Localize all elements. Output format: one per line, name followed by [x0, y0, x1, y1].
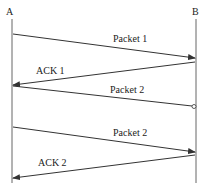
message-packet-2-lost: Packet 2	[13, 84, 196, 109]
arrow	[13, 86, 192, 106]
message-packet-2-retransmit: Packet 2	[13, 127, 195, 152]
message-ack-2: ACK 2	[13, 155, 195, 178]
sequence-diagram: A B Packet 1 ACK 1 Packet 2 Packet 2 ACK…	[0, 0, 203, 183]
arrow	[13, 127, 195, 152]
lost-packet-marker	[192, 105, 196, 109]
arrow	[13, 34, 195, 58]
message-label: ACK 1	[36, 65, 65, 76]
message-label: ACK 2	[38, 157, 67, 168]
message-label: Packet 1	[113, 33, 147, 44]
message-ack-1: ACK 1	[13, 62, 195, 85]
lifeline-b-label: B	[192, 6, 199, 17]
message-label: Packet 2	[110, 84, 144, 95]
message-label: Packet 2	[113, 127, 147, 138]
lifeline-a-label: A	[6, 6, 14, 17]
message-packet-1: Packet 1	[13, 33, 195, 58]
